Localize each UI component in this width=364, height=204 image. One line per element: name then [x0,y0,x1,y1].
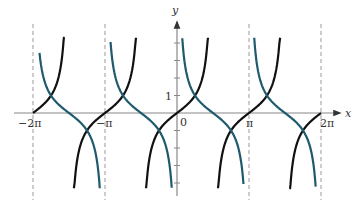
tick-label-two-pi: 2π [320,117,334,130]
tick-label-one: 1 [165,90,172,103]
tick-label-pi: π [246,117,253,130]
cot-curve-branch [182,38,243,184]
tick-label-neg-pi: −π [96,117,112,130]
tick-label-neg-two-pi: −2π [18,117,41,130]
cot-curve-branch [111,42,172,188]
x-axis-label: x [345,107,352,120]
tick-label-origin: 0 [180,116,187,129]
y-axis-label: y [171,4,179,17]
tan-curve-branch [33,38,65,113]
cot-curve-branch [254,38,315,187]
trig-graph: y x −2π −π 0 π 2π 1 [0,0,364,204]
tan-curve-branch [289,113,321,188]
cot-curve-branch [39,53,99,188]
